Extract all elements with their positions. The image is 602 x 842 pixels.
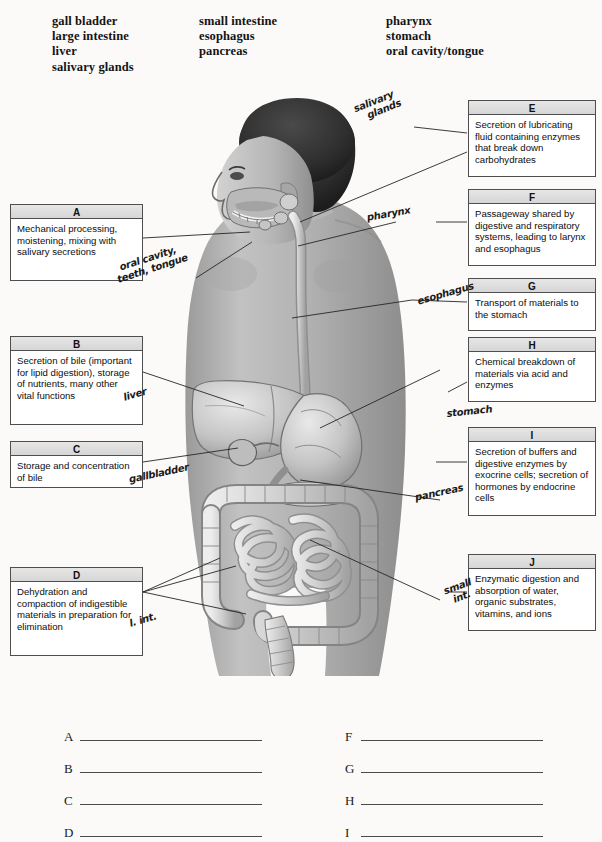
answer-letter-a: A xyxy=(64,729,80,745)
box-text-g: Transport of materials to the stomach xyxy=(468,293,596,331)
box-letter-h: H xyxy=(468,337,596,352)
answer-lines-section: A B C D E F G H xyxy=(0,700,602,842)
answer-blank-c[interactable] xyxy=(80,792,262,805)
box-text-i: Secretion of buffers and digestive enzym… xyxy=(468,442,596,516)
word-bank-column-3: pharynx stomach oral cavity/tongue xyxy=(386,14,484,60)
answer-blank-a[interactable] xyxy=(80,728,262,741)
word-bank-term: pharynx xyxy=(386,14,484,29)
description-box-e[interactable]: E Secretion of lubricating fluid contain… xyxy=(468,100,596,177)
answer-letter-h: H xyxy=(345,793,361,809)
box-letter-a: A xyxy=(10,204,143,219)
word-bank-column-1: gall bladder large intestine liver saliv… xyxy=(52,14,134,75)
answer-row-a[interactable]: A xyxy=(64,728,262,745)
box-text-j: Enzymatic digestion and absorption of wa… xyxy=(468,569,596,631)
description-box-j[interactable]: J Enzymatic digestion and absorption of … xyxy=(468,554,596,631)
answer-row-i[interactable]: I xyxy=(345,824,543,841)
description-box-d[interactable]: D Dehydration and compaction of indigest… xyxy=(10,567,143,656)
handwritten-stomach: stomach xyxy=(446,403,493,419)
description-box-c[interactable]: C Storage and concentration of bile xyxy=(10,441,143,488)
worksheet-page: gall bladder large intestine liver saliv… xyxy=(0,0,602,842)
box-letter-f: F xyxy=(468,189,596,204)
box-letter-g: G xyxy=(468,278,596,293)
answer-row-d[interactable]: D xyxy=(64,824,262,841)
answer-row-h[interactable]: H xyxy=(345,792,543,809)
box-letter-e: E xyxy=(468,100,596,115)
answer-blank-b[interactable] xyxy=(80,760,262,773)
box-letter-c: C xyxy=(10,441,143,456)
word-bank-term: small intestine xyxy=(199,14,277,29)
word-bank-term: liver xyxy=(52,44,134,59)
description-box-h[interactable]: H Chemical breakdown of materials via ac… xyxy=(468,337,596,402)
word-bank-term: gall bladder xyxy=(52,14,134,29)
answer-row-g[interactable]: G xyxy=(345,760,543,777)
answer-letter-b: B xyxy=(64,761,80,777)
box-text-h: Chemical breakdown of materials via acid… xyxy=(468,352,596,402)
answer-blank-f[interactable] xyxy=(361,728,543,741)
box-text-b: Secretion of bile (important for lipid d… xyxy=(10,351,143,425)
answer-blank-h[interactable] xyxy=(361,792,543,805)
answer-letter-i: I xyxy=(345,825,361,841)
word-bank: gall bladder large intestine liver saliv… xyxy=(0,14,602,84)
word-bank-term: stomach xyxy=(386,29,484,44)
box-letter-j: J xyxy=(468,554,596,569)
description-box-g[interactable]: G Transport of materials to the stomach xyxy=(468,278,596,331)
box-letter-i: I xyxy=(468,427,596,442)
answer-row-f[interactable]: F xyxy=(345,728,543,745)
box-text-e: Secretion of lubricating fluid containin… xyxy=(468,115,596,177)
word-bank-term: esophagus xyxy=(199,29,277,44)
answer-letter-f: F xyxy=(345,729,361,745)
box-text-c: Storage and concentration of bile xyxy=(10,456,143,488)
word-bank-term: pancreas xyxy=(199,44,277,59)
description-box-i[interactable]: I Secretion of buffers and digestive enz… xyxy=(468,427,596,516)
answer-row-c[interactable]: C xyxy=(64,792,262,809)
answer-blank-i[interactable] xyxy=(361,824,543,837)
answer-blank-g[interactable] xyxy=(361,760,543,773)
answer-blank-d[interactable] xyxy=(80,824,262,837)
word-bank-column-2: small intestine esophagus pancreas xyxy=(199,14,277,60)
answer-letter-c: C xyxy=(64,793,80,809)
answer-letter-g: G xyxy=(345,761,361,777)
box-letter-d: D xyxy=(10,567,143,582)
leader-line-h xyxy=(448,382,467,392)
answer-row-b[interactable]: B xyxy=(64,760,262,777)
description-box-b[interactable]: B Secretion of bile (important for lipid… xyxy=(10,336,143,425)
box-text-d: Dehydration and compaction of indigestib… xyxy=(10,582,143,656)
digestive-system-illustration xyxy=(175,96,430,676)
answer-letter-d: D xyxy=(64,825,80,841)
word-bank-term: large intestine xyxy=(52,29,134,44)
word-bank-term: oral cavity/tongue xyxy=(386,44,484,59)
word-bank-term: salivary glands xyxy=(52,60,134,75)
description-box-f[interactable]: F Passageway shared by digestive and res… xyxy=(468,189,596,266)
box-letter-b: B xyxy=(10,336,143,351)
box-text-f: Passageway shared by digestive and respi… xyxy=(468,204,596,266)
